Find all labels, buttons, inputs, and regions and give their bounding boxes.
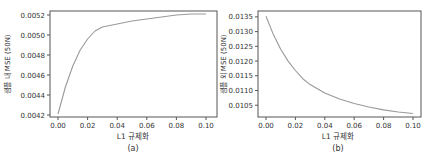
y-tick-label: 0.0135	[229, 13, 254, 21]
y-tick-label: 0.0115	[229, 72, 254, 80]
x-tick-label: 0.00	[50, 122, 66, 130]
panel-b: 0.01050.01100.01150.01200.01250.01300.01…	[219, 11, 421, 153]
figure-canvas: 0.00420.00440.00460.00480.00500.00520.00…	[0, 0, 436, 154]
y-tick-label: 0.0046	[21, 72, 46, 80]
x-tick-label: 0.04	[317, 122, 333, 130]
x-tick-label: 0.08	[376, 122, 392, 130]
x-tick-label: 0.10	[405, 122, 421, 130]
x-tick-label: 0.08	[169, 122, 185, 130]
data-line	[266, 16, 413, 113]
y-tick-label: 0.0050	[21, 32, 46, 40]
x-axis-label: L1 규제화	[322, 132, 354, 141]
y-tick-label: 0.0048	[21, 52, 46, 60]
y-tick-label: 0.0120	[229, 58, 254, 66]
figure: 0.00420.00440.00460.00480.00500.00520.00…	[0, 0, 436, 154]
panel-label: (b)	[332, 144, 343, 153]
x-tick-label: 0.02	[288, 122, 304, 130]
y-tick-label: 0.0110	[229, 87, 254, 95]
x-tick-label: 0.10	[198, 122, 214, 130]
panel-a: 0.00420.00440.00460.00480.00500.00520.00…	[3, 11, 217, 153]
x-tick-label: 0.06	[139, 122, 155, 130]
y-axis-label: 샘플 내 MSE (50N)	[3, 34, 12, 93]
plot-frame	[258, 11, 421, 117]
y-tick-label: 0.0130	[229, 28, 254, 36]
data-line	[58, 14, 206, 114]
y-tick-label: 0.0044	[21, 92, 46, 100]
panel-label: (a)	[127, 144, 138, 153]
plot-frame	[50, 11, 217, 117]
x-tick-label: 0.04	[109, 122, 125, 130]
y-axis-label: 샘플 외 MSE (50N)	[219, 34, 228, 93]
x-tick-label: 0.06	[346, 122, 362, 130]
y-tick-label: 0.0105	[229, 102, 254, 110]
y-tick-label: 0.0125	[229, 43, 254, 51]
x-tick-label: 0.00	[258, 122, 274, 130]
y-tick-label: 0.0052	[21, 12, 46, 20]
x-tick-label: 0.02	[80, 122, 96, 130]
y-tick-label: 0.0042	[21, 112, 46, 120]
x-axis-label: L1 규제화	[117, 132, 149, 141]
